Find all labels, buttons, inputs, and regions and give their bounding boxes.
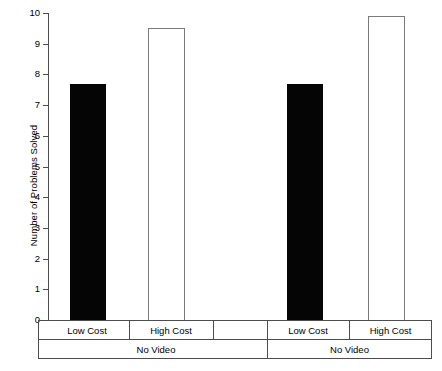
x-axis-separator xyxy=(349,321,350,340)
x-axis-separator xyxy=(267,340,268,359)
bar-1 xyxy=(148,28,185,321)
y-tick-label: 4 xyxy=(35,190,40,203)
y-tick-mark xyxy=(43,259,48,260)
y-tick-7: 7 xyxy=(0,105,48,106)
y-tick-mark xyxy=(43,197,48,198)
x-axis-category-row: Low CostHigh CostLow CostHigh Cost xyxy=(38,321,432,340)
y-tick-label: 3 xyxy=(35,221,40,234)
x-group-cell: No Video xyxy=(267,340,432,358)
y-tick-4: 4 xyxy=(0,197,48,198)
y-tick-10: 10 xyxy=(0,13,48,14)
bar-3 xyxy=(368,16,405,321)
bar-2 xyxy=(287,84,323,321)
x-axis-separator xyxy=(213,321,214,340)
x-axis-separator xyxy=(267,321,268,340)
y-tick-label: 1 xyxy=(35,282,40,295)
y-tick-mark xyxy=(43,136,48,137)
bar-chart: Number of Problems Solved 012345678910 L… xyxy=(0,0,442,371)
x-category-cell xyxy=(213,321,267,339)
y-tick-mark xyxy=(43,105,48,106)
y-tick-3: 3 xyxy=(0,228,48,229)
x-category-cell: High Cost xyxy=(349,321,432,339)
y-tick-5: 5 xyxy=(0,167,48,168)
x-group-cell: No Video xyxy=(45,340,267,358)
y-tick-label: 7 xyxy=(35,98,40,111)
y-tick-1: 1 xyxy=(0,289,48,290)
y-tick-mark xyxy=(43,13,48,14)
y-tick-mark xyxy=(43,44,48,45)
bar-0 xyxy=(70,84,106,321)
y-tick-label: 2 xyxy=(35,252,40,265)
y-tick-label: 10 xyxy=(29,6,40,19)
y-tick-label: 9 xyxy=(35,37,40,50)
y-tick-label: 8 xyxy=(35,67,40,80)
y-tick-8: 8 xyxy=(0,74,48,75)
y-tick-9: 9 xyxy=(0,44,48,45)
x-category-cell: High Cost xyxy=(129,321,213,339)
y-tick-mark xyxy=(43,289,48,290)
y-tick-mark xyxy=(43,74,48,75)
y-tick-mark xyxy=(43,228,48,229)
x-category-cell: Low Cost xyxy=(267,321,349,339)
y-tick-label: 6 xyxy=(35,129,40,142)
x-axis-group-row: No VideoNo Video xyxy=(38,340,432,359)
x-axis-separator xyxy=(129,321,130,340)
plot-area xyxy=(49,13,430,321)
y-tick-2: 2 xyxy=(0,259,48,260)
y-tick-label: 5 xyxy=(35,160,40,173)
y-tick-mark xyxy=(43,167,48,168)
y-axis-title: Number of Problems Solved xyxy=(22,0,44,371)
y-tick-6: 6 xyxy=(0,136,48,137)
x-category-cell: Low Cost xyxy=(45,321,129,339)
